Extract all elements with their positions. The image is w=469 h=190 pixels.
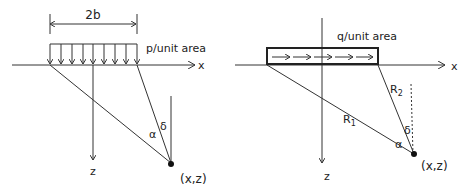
- point-label: (x,z): [180, 172, 207, 186]
- width-dimension: 2b: [50, 8, 137, 34]
- load-label: q/unit area: [337, 30, 397, 43]
- z-axis-label: z: [324, 170, 330, 183]
- left-diagram: 2b x p/unit area z α δ (x,z): [12, 8, 207, 186]
- x-axis-label: x: [451, 60, 458, 73]
- point-marker: [168, 161, 174, 167]
- angle-delta: δ: [404, 124, 411, 137]
- width-label: 2b: [85, 8, 100, 22]
- load-label: p/unit area: [146, 42, 206, 55]
- right-diagram: x z q/unit area R1 R2 α δ (x,z): [235, 18, 458, 183]
- stress-diagrams: 2b x p/unit area z α δ (x,z): [0, 0, 469, 190]
- z-axis-label: z: [90, 165, 96, 178]
- ray-left-edge: [50, 65, 171, 163]
- uniform-vertical-load: [50, 44, 137, 64]
- r2-label: R2: [390, 83, 403, 98]
- ray-right-edge: [137, 65, 171, 163]
- r1-label: R1: [343, 113, 356, 128]
- point-label: (x,z): [421, 159, 448, 173]
- angle-delta: δ: [160, 120, 167, 133]
- point-marker: [411, 151, 417, 157]
- angle-alpha: α: [149, 128, 156, 141]
- vertical-reference-dotted: [411, 84, 413, 154]
- angle-alpha: α: [395, 138, 402, 151]
- ray-r1: [267, 65, 414, 154]
- x-axis-label: x: [198, 59, 205, 72]
